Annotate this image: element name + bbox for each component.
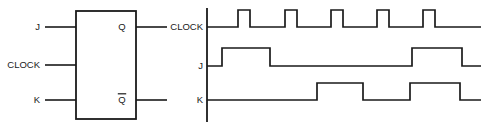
waveform-label-j: J: [198, 60, 203, 71]
waveform-row-k: K: [197, 83, 481, 105]
waveform-trace-k: [207, 83, 481, 100]
input-label-clock: CLOCK: [7, 59, 40, 70]
waveform-label-k: K: [197, 94, 204, 105]
output-label-q: Q: [118, 21, 125, 32]
flipflop-output-qbar: Q: [118, 94, 167, 106]
input-label-j: J: [35, 21, 40, 32]
jk-flipflop-box: [76, 11, 136, 119]
waveform-row-j: J: [198, 48, 481, 71]
flipflop-input-clock: CLOCK: [7, 59, 76, 70]
waveform-trace-j: [207, 48, 481, 66]
flipflop-output-q: Q: [118, 21, 167, 32]
schematic-canvas: JCLOCKK QQ CLOCKJK: [0, 0, 487, 130]
timing-waveforms: CLOCKJK: [170, 10, 481, 105]
output-label-qbar: Q: [118, 94, 125, 105]
input-label-k: K: [34, 94, 41, 105]
flipflop-input-j: J: [35, 21, 76, 32]
flipflop-inputs: JCLOCKK: [7, 21, 76, 105]
figure-root: JCLOCKK QQ CLOCKJK: [0, 0, 487, 130]
waveform-trace-clock: [207, 10, 481, 27]
waveform-label-clock: CLOCK: [170, 21, 203, 32]
waveform-row-clock: CLOCK: [170, 10, 481, 32]
flipflop-input-k: K: [34, 94, 76, 105]
